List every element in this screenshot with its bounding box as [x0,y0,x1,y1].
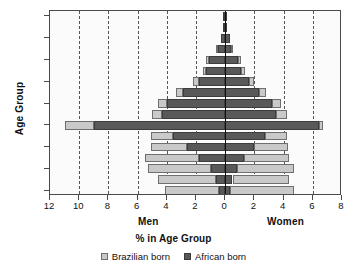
bar-segment-men-brazilian [145,154,199,163]
bar-row [50,99,340,108]
bar-segment-women-brazilian [237,164,294,173]
x-axis-tick-label: 2 [238,200,268,211]
x-axis-tick-label: 6 [297,200,327,211]
bar-row [50,164,340,173]
bar-segment-men-brazilian [158,175,216,184]
y-axis-tick [44,37,49,38]
x-axis-tick-label: 10 [63,200,93,211]
bar-segment-women-african [225,132,264,141]
y-axis-tick [44,15,49,16]
bar-row [50,143,340,152]
bar-segment-women-african [225,164,237,173]
bar-row [50,67,340,76]
bar-row [50,154,340,163]
y-axis-title: Age Group [14,64,25,154]
bar-segment-men-african [162,110,225,119]
bar-segment-women-african [225,67,241,76]
bar-segment-men-brazilian [148,164,211,173]
bar-segment-men-african [216,175,225,184]
bar-segment-men-african [199,154,225,163]
y-axis-tick [44,168,49,169]
x-axis-title: % in Age Group [0,233,347,244]
bar-row [50,56,340,65]
bar-segment-women-brazilian [276,110,286,119]
bar-segment-women-brazilian [259,88,266,97]
bar-segment-women-african [225,56,238,65]
plot-area [49,10,341,195]
bar-segment-men-brazilian [151,132,173,141]
x-axis-tick-label: 6 [122,200,152,211]
bar-segment-men-african [94,121,225,130]
bar-segment-men-african [211,164,226,173]
men-side-label: Men [108,216,188,227]
bar-segment-women-brazilian [230,186,294,195]
bar-segment-men-african [199,77,225,86]
bar-segment-women-brazilian [272,99,281,108]
y-axis-tick [44,81,49,82]
bar-row [50,186,340,195]
x-axis-tick-label: 0 [209,200,239,211]
bar-row [50,88,340,97]
bar-row [50,45,340,54]
bar-segment-women-brazilian [254,143,288,152]
x-axis-tick-label: 12 [34,200,64,211]
bar-segment-women-african [225,175,232,184]
bar-row [50,110,340,119]
x-axis-tick-label: 8 [92,200,122,211]
y-axis-tick [44,103,49,104]
bar-row [50,12,340,21]
bar-segment-men-african [173,132,226,141]
bar-segment-women-african [225,77,248,86]
bar-segment-men-brazilian [206,56,209,65]
women-side-label: Women [246,216,326,227]
bar-segment-men-brazilian [152,110,162,119]
bar-row [50,132,340,141]
bar-segment-men-african [187,143,225,152]
legend-label: African born [195,251,246,262]
bar-segment-women-brazilian [244,154,289,163]
bar-segment-women-brazilian [249,77,255,86]
bar-segment-men-brazilian [203,67,207,76]
legend-label: Brazilian born [112,251,170,262]
bar-segment-women-brazilian [231,45,233,54]
bar-segment-women-brazilian [241,67,245,76]
y-axis-tick [44,190,49,191]
bar-row [50,34,340,43]
bar-segment-women-brazilian [238,56,241,65]
bar-row [50,121,340,130]
bar-row [50,175,340,184]
bar-segment-women-african [225,154,244,163]
bar-segment-women-brazilian [233,175,290,184]
bar-segment-men-brazilian [176,88,183,97]
legend-swatch-brazilian [101,253,108,260]
y-axis-tick [44,59,49,60]
x-axis-tick-label: 4 [268,200,298,211]
bar-segment-men-brazilian [216,45,218,54]
bar-segment-women-african [225,99,272,108]
center-axis-line [225,11,226,194]
bar-segment-men-african [183,88,225,97]
bar-segment-men-brazilian [158,99,167,108]
legend-item: Brazilian born [101,251,170,262]
bar-row [50,23,340,32]
bar-segment-women-african [225,110,276,119]
bar-segment-women-african [225,88,259,97]
chart-legend: Brazilian bornAfrican born [0,251,347,262]
legend-swatch-african [184,253,191,260]
x-axis-tick-label: 2 [180,200,210,211]
bar-segment-men-brazilian [193,77,199,86]
bar-segment-men-african [218,45,225,54]
bar-row [50,77,340,86]
bar-segment-men-african [167,99,225,108]
x-axis-tick-label: 4 [151,200,181,211]
bar-segment-men-african [206,67,225,76]
bar-segment-women-african [225,121,318,130]
bar-segment-men-brazilian [151,143,188,152]
y-axis-tick [44,146,49,147]
bar-segment-women-brazilian [265,132,287,141]
legend-item: African born [184,251,246,262]
bar-segment-men-african [209,56,225,65]
population-pyramid-chart: Age Group 0–410–1420–2430–3440–4450–5460… [0,0,347,263]
bar-segment-women-african [225,143,254,152]
bar-segment-women-brazilian [319,121,323,130]
